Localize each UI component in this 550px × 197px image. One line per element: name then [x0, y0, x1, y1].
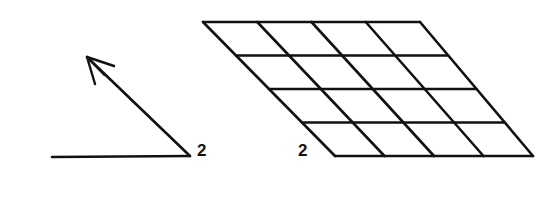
- baseline-segment: [52, 156, 190, 157]
- figure-background: [0, 0, 550, 197]
- vector-label-2: 2: [197, 142, 206, 159]
- grid-label-2: 2: [298, 142, 307, 159]
- figure-canvas: [0, 0, 550, 197]
